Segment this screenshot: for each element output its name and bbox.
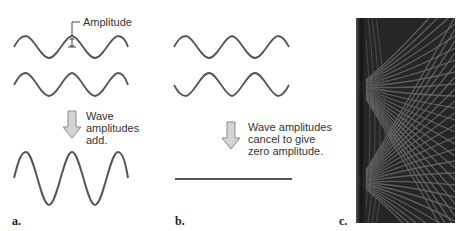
panel-a-result-wave [14, 152, 128, 205]
panel-b-letter: b. [175, 214, 185, 229]
interference-pattern-icon [356, 18, 455, 223]
panel-b-arrow-text: Wave amplitudes cancel to give zero ampl… [248, 121, 332, 157]
panel-a-down-arrow-icon [63, 111, 81, 138]
amplitude-label: Amplitude [83, 16, 132, 28]
panel-a-letter: a. [12, 214, 21, 229]
panel-b-down-arrow-icon [222, 122, 240, 149]
interference-pattern-image [356, 18, 455, 223]
amplitude-marker-icon [68, 22, 80, 47]
panel-a-arrow-text: Wave amplitudes add. [86, 110, 139, 146]
panel-b-wave-2 [174, 73, 289, 96]
panel-b-wave-1 [174, 36, 289, 58]
panel-c-letter: c. [339, 214, 347, 229]
panel-a-wave-2 [14, 73, 128, 96]
